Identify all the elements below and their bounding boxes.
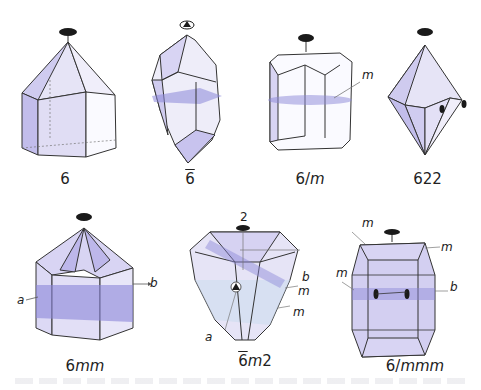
bleed-through-text bbox=[15, 378, 465, 384]
caption-suffix: 2 bbox=[262, 352, 272, 370]
caption-digit: 6 bbox=[238, 352, 248, 370]
caption-6: 6 bbox=[50, 170, 80, 188]
caption-6-m: 6/m bbox=[285, 170, 335, 188]
caption-prefix: 6 bbox=[66, 357, 76, 375]
mirror-plane bbox=[36, 285, 133, 322]
caption-6bar: 6 bbox=[175, 170, 205, 188]
caption-italic: m bbox=[248, 352, 263, 370]
sixfold-axis-icon bbox=[59, 28, 77, 36]
label-a: a bbox=[17, 293, 24, 307]
caption-italic: mmm bbox=[400, 357, 444, 375]
caption-italic: mm bbox=[75, 357, 104, 375]
twofold-axis-icon bbox=[462, 100, 467, 108]
caption-prefix: 6/ bbox=[295, 170, 310, 188]
label-m: m bbox=[362, 68, 374, 82]
caption-prefix: 6/ bbox=[386, 357, 401, 375]
caption-622: 622 bbox=[405, 170, 450, 188]
label-m-lower: m bbox=[293, 305, 305, 319]
label-m-upper: m bbox=[298, 284, 310, 298]
caption-text: 622 bbox=[413, 170, 442, 188]
sixfold-axis-icon bbox=[298, 34, 314, 42]
label-b: b bbox=[302, 270, 310, 284]
sixfold-axis-icon bbox=[417, 28, 433, 36]
caption-text: 6 bbox=[185, 170, 195, 188]
sixfold-axis-icon bbox=[384, 229, 400, 235]
twofold-axis-icon bbox=[440, 105, 445, 113]
sixfold-axis-icon bbox=[76, 213, 92, 221]
twofold-axis-icon bbox=[405, 289, 410, 299]
crystal-6-mmm-drawing bbox=[340, 220, 481, 370]
label-m-left: m bbox=[336, 266, 348, 280]
label-a: a bbox=[205, 330, 212, 344]
caption-text: 6 bbox=[60, 170, 70, 188]
caption-6mm: 6mm bbox=[60, 357, 110, 375]
caption-6-mmm: 6/mmm bbox=[380, 357, 450, 375]
twofold-axis-icon bbox=[236, 225, 250, 231]
mirror-plane bbox=[352, 288, 435, 300]
label-m-top: m bbox=[362, 216, 374, 230]
caption-italic: m bbox=[310, 170, 325, 188]
caption-6bar-m2: 6m2 bbox=[225, 352, 285, 370]
label-m-right: m bbox=[441, 240, 453, 254]
crystal-6-mmm bbox=[340, 220, 481, 370]
label-twofold: 2 bbox=[240, 210, 248, 224]
mirror-plane bbox=[268, 95, 352, 105]
label-b: b bbox=[150, 276, 158, 290]
label-b: b bbox=[450, 280, 458, 294]
